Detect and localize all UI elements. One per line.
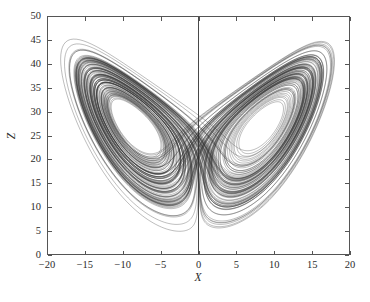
- y-tick-label: 0: [36, 250, 41, 261]
- x-tick-mark-bottom: [199, 251, 200, 255]
- x-tick-mark-top: [85, 17, 86, 21]
- y-tick-mark-right: [345, 16, 349, 17]
- y-tick-mark-left: [48, 64, 52, 65]
- x-tick-mark-top: [47, 17, 48, 21]
- x-tick-mark-bottom: [274, 251, 275, 255]
- y-tick-mark-right: [345, 255, 349, 256]
- trajectory-paths: [61, 39, 335, 231]
- y-tick-mark-right: [345, 88, 349, 89]
- y-tick-label: 15: [31, 178, 42, 189]
- x-tick-label: 0: [196, 260, 201, 271]
- y-tick-label: 25: [31, 130, 42, 141]
- x-tick-label: 15: [307, 260, 318, 271]
- y-tick-mark-left: [48, 40, 52, 41]
- y-tick-label: 30: [31, 106, 42, 117]
- x-axis-title: X: [194, 271, 201, 283]
- y-tick-label: 40: [31, 59, 42, 70]
- y-tick-mark-left: [48, 255, 52, 256]
- x-tick-label: 20: [345, 260, 356, 271]
- x-tick-mark-top: [161, 17, 162, 21]
- y-tick-mark-left: [48, 231, 52, 232]
- x-tick-mark-bottom: [312, 251, 313, 255]
- y-tick-label: 35: [31, 82, 42, 93]
- x-tick-mark-top: [350, 17, 351, 21]
- y-tick-mark-right: [345, 40, 349, 41]
- x-tick-mark-bottom: [350, 251, 351, 255]
- y-tick-mark-left: [48, 207, 52, 208]
- y-tick-mark-left: [48, 136, 52, 137]
- y-tick-label: 20: [31, 154, 42, 165]
- y-tick-mark-left: [48, 183, 52, 184]
- y-tick-label: 50: [31, 11, 42, 22]
- x-tick-mark-bottom: [85, 251, 86, 255]
- lorenz-attractor-figure: −20−15−10−505101520 05101520253035404550…: [0, 0, 370, 302]
- x-tick-mark-bottom: [161, 251, 162, 255]
- x-tick-mark-top: [199, 17, 200, 21]
- trajectory-path: [61, 39, 335, 231]
- y-tick-label: 10: [31, 202, 42, 213]
- x-tick-mark-top: [236, 17, 237, 21]
- x-tick-mark-top: [274, 17, 275, 21]
- x-tick-label: −10: [115, 260, 131, 271]
- x-tick-label: 10: [269, 260, 280, 271]
- y-tick-mark-right: [345, 159, 349, 160]
- y-tick-mark-right: [345, 207, 349, 208]
- y-tick-label: 5: [36, 226, 41, 237]
- y-tick-mark-right: [345, 231, 349, 232]
- x-tick-label: −15: [77, 260, 93, 271]
- y-tick-mark-right: [345, 64, 349, 65]
- x-tick-mark-bottom: [236, 251, 237, 255]
- z-axis-title: Z: [5, 133, 17, 139]
- y-tick-mark-right: [345, 112, 349, 113]
- x-tick-label: −20: [39, 260, 55, 271]
- plot-area: [47, 16, 350, 255]
- y-tick-mark-left: [48, 159, 52, 160]
- x-tick-mark-top: [312, 17, 313, 21]
- x-tick-mark-top: [123, 17, 124, 21]
- x-tick-mark-bottom: [123, 251, 124, 255]
- x-tick-label: 5: [234, 260, 239, 271]
- y-tick-mark-left: [48, 88, 52, 89]
- y-tick-label: 45: [31, 35, 42, 46]
- y-tick-mark-right: [345, 183, 349, 184]
- x-tick-label: −5: [155, 260, 166, 271]
- attractor-curve: [48, 17, 349, 254]
- y-tick-mark-left: [48, 112, 52, 113]
- y-tick-mark-left: [48, 16, 52, 17]
- y-tick-mark-right: [345, 136, 349, 137]
